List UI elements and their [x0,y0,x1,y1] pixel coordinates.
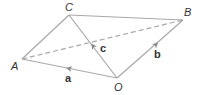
point-label-c: C [65,1,73,13]
segment-cb [69,15,183,20]
diagram-svg: A C B O a b c [0,0,202,95]
vector-label-b: b [154,48,161,60]
point-label-b: B [184,6,191,18]
segment-ac [22,15,69,59]
vector-c-line [69,15,117,78]
point-label-a: A [10,60,18,72]
vector-b-line [117,20,183,78]
point-label-o: O [114,81,123,93]
vector-label-c: c [100,42,106,54]
vector-diagram: A C B O a b c [0,0,202,95]
vector-label-a: a [65,72,72,84]
